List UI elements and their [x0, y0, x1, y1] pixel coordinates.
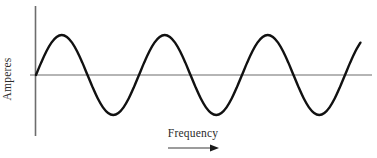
y-axis-label: Amperes — [2, 58, 14, 101]
x-axis-label: Frequency — [168, 128, 218, 140]
sine-wave-figure: Amperes Frequency — [0, 0, 377, 158]
direction-arrow-head — [210, 145, 219, 152]
direction-arrow — [168, 145, 219, 152]
